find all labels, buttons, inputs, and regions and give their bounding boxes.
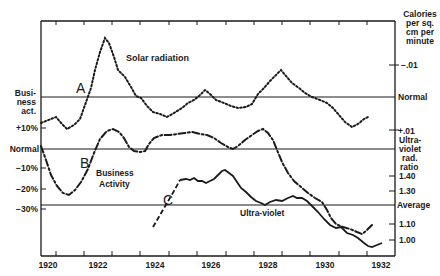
- ultra-violet-label: Ultra-violet: [240, 208, 285, 218]
- x-axis-labels: 1920 1922 1924 1926 1928 1930 1932: [39, 260, 391, 270]
- business-activity-label-1: Business: [96, 168, 134, 178]
- left-tick-minus10: −10%: [16, 163, 38, 173]
- right-tick-minus01: −.01: [401, 60, 418, 70]
- solar-radiation-label: Solar radiation: [126, 53, 189, 63]
- x-tick-1932: 1932: [372, 260, 391, 270]
- chart: Solar radiation A B Business Activity C …: [0, 0, 440, 276]
- letter-c: C: [163, 192, 173, 208]
- reference-lines: [41, 97, 395, 205]
- left-tick-minus20: −20%: [16, 184, 38, 194]
- plot-frame: [41, 21, 395, 256]
- right-tick-130: 1.30: [399, 186, 416, 196]
- right-tick-100: 1.00: [399, 235, 416, 245]
- right-tick-110: 1.10: [399, 219, 416, 229]
- right-tick-average: Average: [397, 200, 431, 210]
- x-tick-1924: 1924: [146, 260, 165, 270]
- left-axis-title-3: act.: [21, 106, 36, 116]
- letter-b: B: [80, 155, 89, 171]
- right-axis-title-top-4: minute: [406, 36, 434, 46]
- x-tick-1930: 1930: [316, 260, 335, 270]
- x-tick-1928: 1928: [259, 260, 278, 270]
- x-tick-1922: 1922: [89, 260, 108, 270]
- business-activity-label-2: Activity: [99, 179, 130, 189]
- right-axis-labels: Calories per sq. cm per minute −.01 Norm…: [397, 9, 437, 245]
- x-tick-1926: 1926: [202, 260, 221, 270]
- letter-a: A: [76, 80, 86, 96]
- series-solar-radiation: [41, 38, 368, 129]
- left-axis-labels: Busi- ness act. +10% Normal −10% −20% −3…: [10, 88, 39, 214]
- left-tick-minus30: −30%: [16, 204, 38, 214]
- x-tick-1920: 1920: [39, 260, 58, 270]
- bottom-ticks: [56, 251, 367, 256]
- left-tick-normal: Normal: [10, 144, 39, 154]
- left-axis-ticks: [41, 128, 46, 209]
- left-tick-plus10: +10%: [16, 123, 38, 133]
- right-tick-140: 1.40: [399, 171, 416, 181]
- right-tick-normal: Normal: [398, 92, 427, 102]
